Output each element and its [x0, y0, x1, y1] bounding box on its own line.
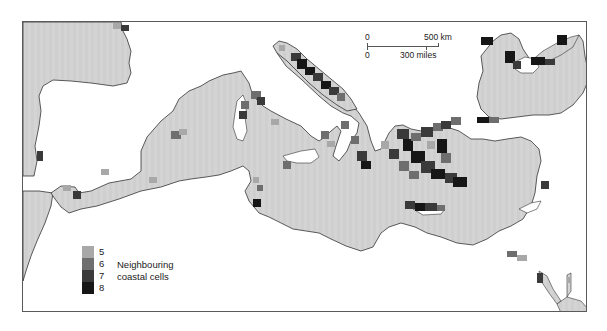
- scale-bar-km-tick: [438, 43, 439, 47]
- scale-bar-line: [367, 46, 438, 47]
- red-sea: [557, 297, 587, 312]
- legend-swatch-6: [82, 258, 94, 270]
- gulf-of-aqaba: [567, 273, 571, 297]
- mediterranean-map: [23, 22, 587, 312]
- scale-bottom-label: 300 miles: [400, 50, 436, 60]
- scale-top-zero: 0: [365, 32, 370, 42]
- scale-bottom-zero: 0: [365, 50, 370, 60]
- scale-top-label: 500 km: [424, 32, 452, 42]
- atlantic-morocco: [23, 191, 53, 281]
- legend-swatch-8: [82, 282, 94, 294]
- legend-label-5: 5: [99, 246, 104, 258]
- map-frame: [22, 21, 587, 312]
- legend-swatch-5: [82, 246, 94, 258]
- legend-title-line2: coastal cells: [117, 271, 169, 283]
- legend-label-6: 6: [99, 258, 104, 270]
- legend-label-8: 8: [99, 282, 104, 294]
- scale-bar-left-tick: [367, 43, 368, 50]
- legend-label-7: 7: [99, 270, 104, 282]
- legend-title-line1: Neighbouring: [117, 259, 174, 271]
- legend-swatch-7: [82, 270, 94, 282]
